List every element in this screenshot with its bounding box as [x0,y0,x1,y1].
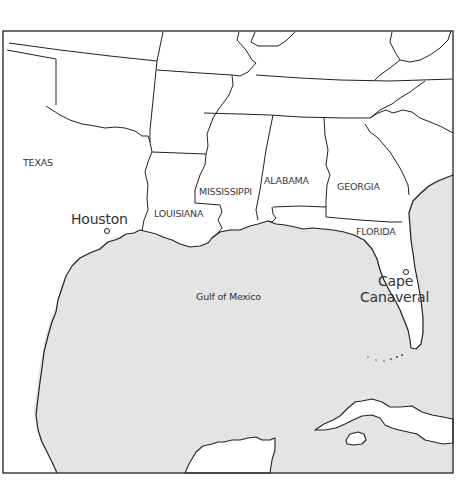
city-label-cape-canaveral-line1: Cape [378,273,413,289]
state-borders [7,31,453,238]
state-label-mississippi: MISSISSIPPI [199,186,252,197]
map-canvas [0,0,466,501]
water-label-gulf-of-mexico: Gulf of Mexico [196,291,261,302]
state-label-georgia: GEORGIA [337,181,380,192]
state-label-alabama: ALABAMA [264,175,309,186]
city-label-houston: Houston [71,211,128,227]
city-marker-houston [104,228,110,234]
state-label-texas: TEXAS [23,157,53,168]
city-label-cape-canaveral-line2: Canaveral [360,289,429,305]
state-label-louisiana: LOUISIANA [154,208,203,219]
state-label-florida: FLORIDA [356,226,396,237]
